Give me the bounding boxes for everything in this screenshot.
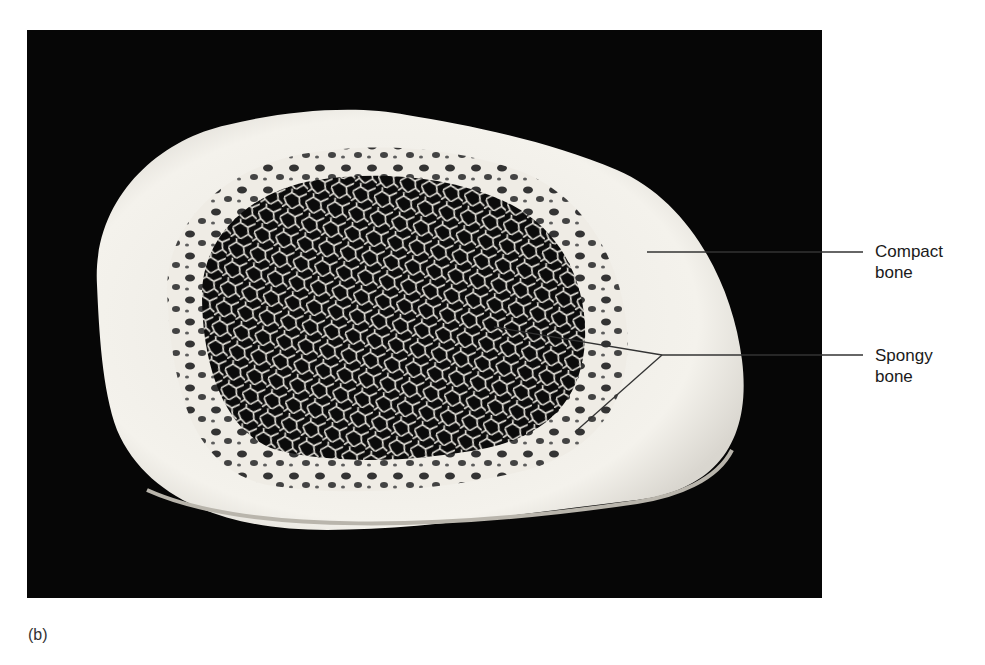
compact-bone-label: Compact bone [875, 241, 943, 283]
bone-illustration [27, 30, 822, 598]
spongy-bone-label: Spongy bone [875, 345, 933, 387]
compact-bone-label-line2: bone [875, 262, 943, 283]
spongy-bone-label-line2: bone [875, 366, 933, 387]
spongy-bone-label-line1: Spongy [875, 345, 933, 366]
compact-bone-label-line1: Compact [875, 241, 943, 262]
bone-cross-section-photo [27, 30, 822, 598]
spongy-bone-region [202, 176, 585, 460]
panel-label: (b) [28, 626, 48, 644]
